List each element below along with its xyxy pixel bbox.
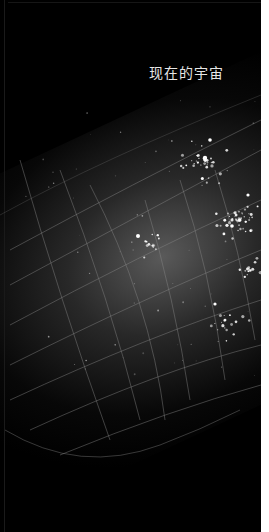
star — [136, 234, 140, 238]
star — [134, 303, 135, 304]
star — [235, 321, 238, 324]
star — [234, 216, 235, 217]
star — [157, 310, 159, 312]
star — [239, 228, 241, 230]
grid-longitude-line — [60, 170, 140, 420]
star — [196, 161, 197, 162]
star — [76, 168, 77, 169]
star — [230, 224, 234, 228]
star — [225, 149, 228, 152]
star — [192, 164, 195, 167]
star — [171, 140, 173, 142]
grid-latitude-line — [10, 120, 261, 250]
star — [224, 319, 225, 320]
star — [209, 106, 210, 107]
star — [225, 329, 227, 331]
star — [241, 212, 243, 214]
star — [152, 245, 154, 247]
star — [145, 162, 146, 163]
star — [244, 270, 246, 272]
star — [244, 208, 246, 210]
star — [155, 248, 157, 250]
star — [229, 314, 231, 316]
star — [131, 241, 132, 242]
star — [226, 259, 227, 260]
star — [134, 283, 135, 284]
star — [132, 249, 134, 251]
star — [189, 250, 190, 251]
star — [197, 161, 199, 163]
title-text: 现在的宇宙 — [149, 62, 224, 82]
star — [213, 302, 216, 305]
star — [194, 163, 195, 164]
star — [210, 324, 213, 327]
star — [201, 177, 204, 180]
star — [210, 157, 212, 159]
star — [251, 216, 253, 218]
star — [219, 172, 222, 175]
star — [174, 363, 175, 364]
grid-latitude-line — [30, 345, 261, 430]
star — [206, 161, 208, 163]
star — [250, 213, 253, 216]
star — [143, 256, 145, 258]
star — [42, 159, 44, 161]
star — [146, 244, 149, 247]
star — [90, 134, 91, 135]
star — [195, 144, 196, 145]
star — [224, 327, 225, 328]
star — [196, 155, 197, 156]
star — [177, 344, 178, 345]
universe-image: 现在的宇宙 — [0, 0, 261, 532]
star — [191, 160, 192, 161]
star — [53, 182, 54, 183]
star — [203, 162, 206, 165]
star — [120, 251, 121, 252]
star — [208, 138, 212, 142]
star — [226, 340, 228, 342]
star — [169, 171, 170, 172]
star — [242, 228, 244, 230]
star — [137, 214, 138, 215]
star — [246, 206, 248, 208]
star — [77, 251, 79, 253]
star — [211, 162, 213, 164]
star — [180, 165, 182, 167]
star — [238, 224, 240, 226]
grid-longitude-line — [20, 160, 110, 440]
star — [221, 322, 222, 323]
star — [211, 294, 212, 295]
star — [115, 175, 116, 176]
star — [255, 101, 256, 102]
star — [246, 193, 249, 196]
star — [196, 361, 197, 362]
star — [254, 375, 255, 376]
star — [79, 235, 80, 236]
star — [73, 198, 74, 199]
star — [48, 336, 50, 338]
star — [218, 341, 219, 342]
star — [172, 283, 173, 284]
star — [233, 333, 235, 335]
star — [217, 329, 218, 330]
star — [207, 164, 208, 165]
star — [225, 224, 228, 227]
star — [168, 140, 169, 141]
star — [231, 237, 233, 239]
star — [85, 360, 86, 361]
star — [254, 149, 255, 150]
star — [223, 233, 226, 236]
star — [241, 315, 244, 318]
star — [85, 368, 86, 369]
star — [158, 238, 160, 240]
star — [208, 177, 210, 179]
star — [230, 218, 233, 221]
star — [86, 112, 88, 114]
star — [142, 352, 144, 354]
star — [245, 221, 247, 223]
star — [214, 323, 215, 324]
star — [181, 154, 184, 157]
star — [215, 224, 218, 227]
star — [238, 218, 241, 221]
star — [248, 213, 249, 214]
